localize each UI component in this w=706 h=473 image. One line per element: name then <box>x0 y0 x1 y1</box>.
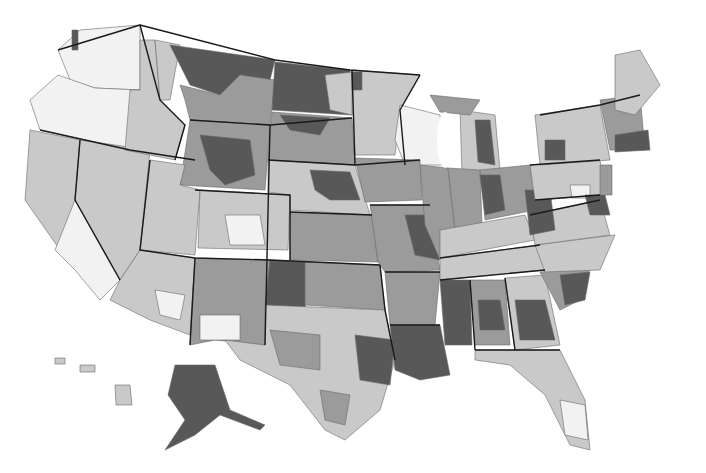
region-tx-east <box>355 335 395 385</box>
region-hi-1 <box>115 385 132 405</box>
region-co-white <box>225 215 265 245</box>
region-hi-2 <box>80 365 95 372</box>
region-ok <box>305 262 385 310</box>
region-pa <box>530 160 605 200</box>
region-ny-dark <box>545 140 565 160</box>
region-la <box>390 325 450 380</box>
us-choropleth-map <box>0 0 706 473</box>
region-ok-pan <box>265 260 310 310</box>
region-mn-nw <box>352 72 362 90</box>
region-ar <box>385 272 440 325</box>
region-hi-3 <box>55 358 65 364</box>
region-ks <box>290 212 378 262</box>
region-ms <box>440 280 472 345</box>
region-wa-puget <box>72 30 78 50</box>
region-nm-white <box>200 315 240 340</box>
region-al-dark <box>478 300 505 330</box>
region-nj <box>600 165 612 195</box>
lake-michigan <box>437 112 453 168</box>
